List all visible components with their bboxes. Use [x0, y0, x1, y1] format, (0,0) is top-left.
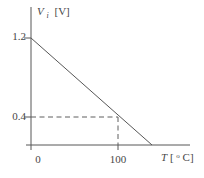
x-tick-label-100: 100	[110, 153, 127, 165]
x-axis-symbol: T	[161, 151, 168, 163]
data-line	[31, 38, 152, 145]
y-axis-label: V i [V]	[37, 5, 70, 20]
y-axis-symbol: V	[37, 5, 45, 17]
vi-vs-temperature-chart: V i [V] 1.2 0.4 0 100 T [ o C]	[0, 0, 204, 178]
y-tick-label-0-4: 0.4	[12, 110, 26, 122]
y-axis-subscript: i	[46, 11, 48, 20]
chart-canvas: V i [V] 1.2 0.4 0 100 T [ o C]	[0, 0, 204, 178]
x-axis-unit-open: [	[170, 151, 174, 163]
y-tick-label-1-2: 1.2	[12, 30, 26, 42]
x-tick-label-0: 0	[35, 153, 41, 165]
x-axis-label: T [ o C]	[161, 148, 194, 164]
x-axis-degree: o	[176, 152, 180, 160]
y-axis-unit: [V]	[54, 5, 69, 17]
x-axis-unit-close: C]	[183, 151, 194, 163]
